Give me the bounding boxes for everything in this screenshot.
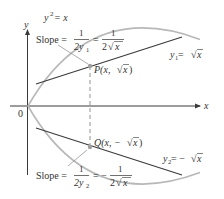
function-label-lower: y 2 = − √ x: [162, 153, 203, 165]
svg-text:=: =: [178, 49, 184, 60]
svg-text:2y: 2y: [74, 177, 84, 188]
svg-text:x: x: [114, 41, 120, 52]
point-label-q: Q(x, − √ x ): [94, 137, 142, 149]
point-label-p: P(x, √ x ): [93, 64, 132, 76]
svg-text:x: x: [132, 137, 138, 148]
svg-text:2y: 2y: [74, 41, 84, 52]
point-p: [88, 64, 92, 68]
svg-text:√: √: [108, 41, 114, 52]
svg-text:1: 1: [79, 164, 84, 174]
svg-text:√: √: [116, 177, 122, 188]
svg-text:= x: = x: [54, 12, 68, 23]
svg-text:x: x: [122, 64, 128, 75]
x-axis-label: x: [203, 100, 209, 111]
svg-text:): ): [139, 137, 142, 149]
svg-text:): ): [129, 64, 132, 76]
svg-text:1: 1: [79, 28, 84, 38]
slope-label-upper: Slope = 1 2y 1 = 1 2 √ x: [36, 28, 124, 53]
parabola-tangent-diagram: y x 0 y 2 = x Slope = 1 2y 1 = 1 2 √ x P…: [0, 0, 224, 199]
svg-text:x: x: [196, 49, 202, 60]
svg-text:x: x: [196, 153, 202, 164]
svg-text:= −: = −: [171, 153, 185, 164]
svg-text:x: x: [122, 177, 128, 188]
svg-text:2: 2: [86, 182, 89, 189]
curve-equation-label: y 2 = x: [43, 10, 68, 23]
svg-text:1: 1: [86, 46, 89, 53]
point-q: [88, 145, 92, 149]
y-axis-label: y: [23, 19, 29, 30]
svg-text:P(x,: P(x,: [93, 64, 110, 76]
svg-text:2: 2: [102, 41, 107, 52]
svg-text:1: 1: [111, 28, 116, 38]
svg-text:2: 2: [110, 177, 115, 188]
svg-text:= −: = −: [93, 170, 107, 181]
svg-text:Slope =: Slope =: [36, 34, 67, 45]
svg-text:y: y: [43, 12, 49, 23]
function-label-upper: y 1 = √ x: [169, 49, 203, 61]
origin-label: 0: [18, 108, 23, 119]
tangent-line-lower: [36, 128, 182, 175]
svg-text:1: 1: [118, 164, 123, 174]
svg-text:Q(x, −: Q(x, −: [94, 137, 121, 149]
svg-text:=: =: [93, 34, 99, 45]
svg-text:Slope =: Slope =: [36, 170, 67, 181]
